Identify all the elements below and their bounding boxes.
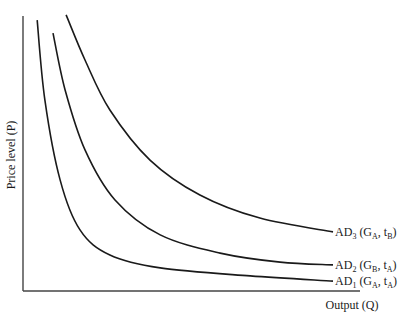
curve-ad3 bbox=[66, 15, 333, 232]
curve-ad2 bbox=[53, 33, 333, 265]
curve-ad1 bbox=[37, 20, 333, 281]
legend-label-ad1: AD1 (GA, tA) bbox=[335, 274, 397, 290]
x-axis-label: Output (Q) bbox=[326, 298, 379, 312]
series-ad1: AD1 (GA, tA) bbox=[37, 20, 397, 290]
y-axis-label: Price level (P) bbox=[4, 121, 18, 190]
chart: Price level (P) Output (Q) AD1 (GA, tA)A… bbox=[0, 0, 414, 317]
series-ad3: AD3 (GA, tB) bbox=[66, 15, 396, 241]
series-layer: AD1 (GA, tA)AD2 (GB, tA)AD3 (GA, tB) bbox=[37, 15, 397, 290]
legend-label-ad2: AD2 (GB, tA) bbox=[335, 258, 396, 274]
legend-label-ad3: AD3 (GA, tB) bbox=[335, 225, 396, 241]
